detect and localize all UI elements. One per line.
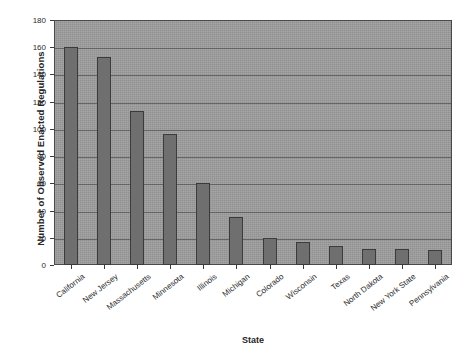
bar [263,238,277,265]
x-tick-label: California [54,272,86,300]
x-tick-label-text: Minnesota [151,272,186,302]
bar [362,249,376,265]
x-tick-mark [270,265,271,269]
y-tick-label: 100 [6,124,46,133]
x-tick-label: Texas [329,272,351,292]
y-tick-label: 140 [6,70,46,79]
y-tick-label: 40 [6,206,46,215]
x-tick-label: Wisconsin [284,272,318,302]
x-tick-mark [402,265,403,269]
bar [196,183,210,265]
bar-chart: Number of Observed Enacted Regulations 0… [0,0,474,361]
x-tick-label-text: Colorado [254,272,285,299]
x-tick-mark [137,265,138,269]
y-tick-label: 120 [6,97,46,106]
x-tick-mark [71,265,72,269]
bar [163,134,177,265]
y-tick-mark [50,265,54,266]
x-tick-label-text: Texas [329,272,351,292]
bar [428,250,442,265]
y-tick-label: 80 [6,152,46,161]
x-tick-label: Michigan [221,272,252,299]
y-tick-label: 180 [6,16,46,25]
bar [296,242,310,265]
y-tick-label: 0 [6,261,46,270]
x-tick-mark [303,265,304,269]
bar [329,246,343,265]
x-tick-label-text: Wisconsin [284,272,318,302]
x-tick-mark [435,265,436,269]
x-tick-label: Colorado [254,272,285,299]
x-tick-mark [236,265,237,269]
x-tick-mark [369,265,370,269]
y-tick-label: 20 [6,233,46,242]
y-tick-label: 160 [6,43,46,52]
x-tick-mark [203,265,204,269]
x-tick-mark [104,265,105,269]
bar [64,47,78,265]
bars-layer [54,20,452,265]
y-tick-label: 60 [6,179,46,188]
x-tick-mark [336,265,337,269]
x-tick-label-text: Michigan [221,272,252,299]
x-axis-title: State [54,335,452,345]
bar [395,249,409,265]
bar [229,217,243,265]
x-tick-label: Illinois [196,272,219,293]
x-tick-label-text: California [54,272,86,300]
bar [97,57,111,265]
x-tick-label-text: Illinois [196,272,219,293]
x-tick-label: Minnesota [151,272,186,302]
x-tick-mark [170,265,171,269]
bar [130,111,144,265]
